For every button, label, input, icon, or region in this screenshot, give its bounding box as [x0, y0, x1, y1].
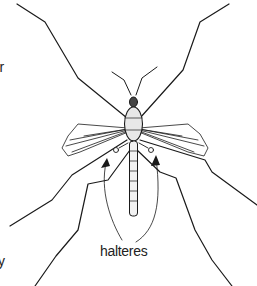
arrowhead-right: [151, 155, 160, 166]
halteres-pointer-left: [104, 163, 122, 240]
leg-front-right: [140, 4, 229, 118]
leg-hind-right: [137, 150, 232, 286]
antenna-left: [112, 72, 131, 95]
thorax: [125, 107, 143, 141]
leg-front-left: [17, 4, 127, 118]
leg-hind-left: [35, 150, 130, 286]
arrowhead-left: [101, 158, 110, 168]
halteres-label: halteres: [100, 243, 147, 259]
abdomen: [130, 141, 138, 216]
halteres-pointer-right: [136, 158, 158, 242]
clipped-label-lower: y: [0, 253, 5, 269]
antenna-right: [136, 67, 157, 95]
clipped-label-upper: er: [0, 59, 4, 75]
crane-fly-diagram: halteres er y: [0, 0, 257, 286]
head: [130, 97, 138, 107]
